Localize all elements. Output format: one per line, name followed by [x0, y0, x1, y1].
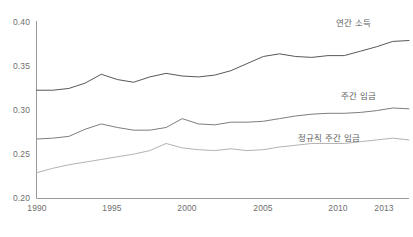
series-line-1: [37, 41, 410, 91]
y-tick-label-030: 0.30: [2, 105, 30, 115]
series-label-annual-income: 연간 소득: [336, 16, 371, 28]
x-tick-label-2005: 2005: [248, 203, 278, 213]
series-label-fulltime-weekly-wage: 정규직 주간 임금: [298, 131, 361, 143]
y-tick-label-035: 0.35: [2, 61, 30, 71]
x-tick-label-2013: 2013: [369, 203, 399, 213]
y-tick-label-040: 0.40: [2, 17, 30, 27]
x-tick-label-1990: 1990: [22, 203, 52, 213]
plot-area: [0, 0, 413, 237]
x-tick-label-1995: 1995: [97, 203, 127, 213]
line-chart: 0.40 0.35 0.30 0.25 0.20 1990 1995 2000 …: [0, 0, 413, 237]
y-tick-label-025: 0.25: [2, 149, 30, 159]
series-line-3: [37, 138, 410, 173]
x-tick-label-2000: 2000: [172, 203, 202, 213]
series-label-weekly-wage: 주간 임금: [341, 89, 376, 101]
y-tick-label-020: 0.20: [2, 193, 30, 203]
x-tick-label-2010: 2010: [323, 203, 353, 213]
axes: [37, 21, 410, 199]
series-layer: [37, 41, 410, 173]
